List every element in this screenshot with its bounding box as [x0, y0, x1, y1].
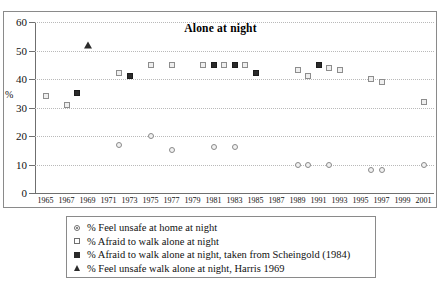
data-point-open-square	[421, 99, 427, 105]
data-point-open-circle	[368, 167, 374, 173]
legend-label: % Afraid to walk alone at night, taken f…	[87, 249, 350, 260]
chart-legend: % Feel unsafe at home at night% Afraid t…	[66, 216, 376, 278]
marker-glyph	[74, 238, 80, 244]
gridline	[35, 136, 434, 137]
data-point-open-square	[169, 62, 175, 68]
plot-area	[35, 22, 434, 193]
x-axis-tick-label: 1979	[185, 196, 201, 205]
x-axis-tick-label: 1989	[290, 196, 306, 205]
y-axis-tick	[29, 165, 35, 166]
data-point-filled-square	[74, 90, 80, 96]
data-point-open-square	[200, 62, 206, 68]
data-point-open-square	[295, 67, 301, 73]
data-point-open-square	[64, 102, 70, 108]
y-axis-tick-label: 50	[16, 46, 27, 57]
x-axis-tick-label: 1971	[101, 196, 117, 205]
x-axis-tick-label: 1981	[206, 196, 222, 205]
x-axis-tick-label: 1985	[248, 196, 264, 205]
y-axis-tick-label: 40	[16, 74, 27, 85]
x-axis-tick-label: 1965	[38, 196, 54, 205]
data-point-open-square	[368, 76, 374, 82]
x-axis-tick-label: 1973	[122, 196, 138, 205]
x-axis-tick-label: 1975	[143, 196, 159, 205]
y-axis-tick	[29, 136, 35, 137]
data-point-open-circle	[116, 142, 122, 148]
data-point-open-circle	[326, 162, 332, 168]
data-point-open-circle	[148, 133, 154, 139]
legend-row: % Feel unsafe at home at night	[74, 221, 369, 235]
legend-row: % Afraid to walk alone at night	[74, 235, 369, 249]
y-axis-tick	[29, 22, 35, 23]
data-point-open-circle	[421, 162, 427, 168]
data-point-filled-triangle	[84, 41, 92, 48]
data-point-filled-square	[211, 62, 217, 68]
data-point-open-circle	[211, 144, 217, 150]
data-point-open-circle	[295, 162, 301, 168]
marker-glyph	[74, 225, 80, 231]
y-axis-tick	[29, 108, 35, 109]
data-point-filled-square	[253, 70, 259, 76]
gridline	[35, 79, 434, 80]
y-axis-tick	[29, 79, 35, 80]
data-point-open-square	[148, 62, 154, 68]
x-axis-tick-labels: 1965196719691971197319751977197919811983…	[35, 196, 434, 210]
data-point-open-square	[379, 79, 385, 85]
x-axis-tick-label: 1967	[59, 196, 75, 205]
x-axis-tick-label: 2001	[416, 196, 432, 205]
x-axis-tick-label: 1983	[227, 196, 243, 205]
x-axis-line	[35, 193, 434, 194]
figure: Alone at night % 0102030405060 196519671…	[0, 0, 441, 282]
x-axis-tick-label: 1993	[332, 196, 348, 205]
data-point-open-circle	[379, 167, 385, 173]
data-point-filled-square	[127, 73, 133, 79]
y-axis-tick-label: 0	[22, 188, 28, 199]
data-point-open-square	[337, 67, 343, 73]
marker-glyph	[74, 265, 80, 271]
legend-row: % Feel unsafe walk alone at night, Harri…	[74, 262, 369, 276]
x-axis-tick-label: 1969	[80, 196, 96, 205]
x-axis-tick-label: 1995	[353, 196, 369, 205]
gridline	[35, 22, 434, 23]
x-axis-tick-label: 1997	[374, 196, 390, 205]
legend-label: % Feel unsafe walk alone at night, Harri…	[87, 263, 284, 274]
legend-marker-open-circle-dot-icon	[74, 221, 87, 235]
gridline	[35, 108, 434, 109]
data-point-open-square	[221, 62, 227, 68]
data-point-open-circle	[305, 162, 311, 168]
y-axis-tick-label: 20	[16, 131, 27, 142]
gridline	[35, 165, 434, 166]
legend-label: % Afraid to walk alone at night	[87, 236, 219, 247]
legend-marker-open-square-icon	[74, 235, 87, 249]
data-point-open-square	[242, 62, 248, 68]
legend-marker-filled-square-icon	[74, 248, 87, 262]
data-point-open-circle	[169, 147, 175, 153]
data-point-open-square	[43, 93, 49, 99]
legend-marker-filled-triangle-icon	[74, 262, 87, 276]
legend-row: % Afraid to walk alone at night, taken f…	[74, 248, 369, 262]
y-axis-tick-label: 60	[16, 17, 27, 28]
legend-label: % Feel unsafe at home at night	[87, 222, 217, 233]
y-axis-tick	[29, 193, 35, 194]
gridline	[35, 51, 434, 52]
data-point-filled-square	[316, 62, 322, 68]
y-axis-tick-label: 10	[16, 160, 27, 171]
marker-glyph	[74, 252, 80, 258]
y-axis-tick	[29, 51, 35, 52]
y-axis-tick-labels: 0102030405060	[0, 0, 27, 197]
data-point-open-square	[116, 70, 122, 76]
x-axis-tick-label: 1987	[269, 196, 285, 205]
data-point-open-square	[326, 65, 332, 71]
data-point-open-square	[305, 73, 311, 79]
data-point-open-circle	[232, 144, 238, 150]
data-point-filled-square	[232, 62, 238, 68]
x-axis-tick-label: 1991	[311, 196, 327, 205]
x-axis-tick-label: 1999	[395, 196, 411, 205]
x-axis-tick-label: 1977	[164, 196, 180, 205]
y-axis-tick-label: 30	[16, 103, 27, 114]
